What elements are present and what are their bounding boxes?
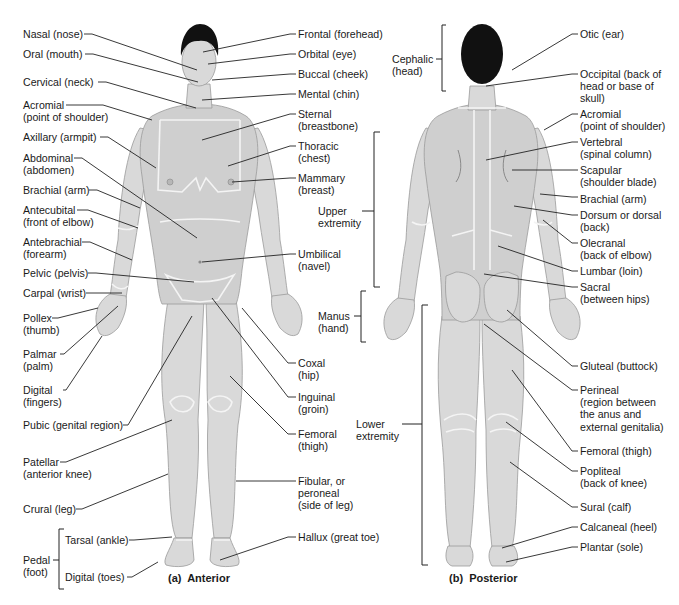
label-sternal: Sternal (breastbone) bbox=[298, 108, 358, 132]
label-lower-extremity: Lower extremity bbox=[356, 418, 399, 442]
label-antebrachial: Antebrachial (forearm) bbox=[23, 236, 82, 260]
label-brachial: Brachial (arm) bbox=[23, 184, 90, 196]
label-acromial-posterior: Acromial (point of shoulder) bbox=[580, 108, 665, 132]
label-scapular: Scapular (shoulder blade) bbox=[580, 164, 657, 188]
caption-anterior: (a) Anterior bbox=[168, 572, 230, 584]
label-sural: Sural (calf) bbox=[580, 501, 631, 513]
label-otic: Otic (ear) bbox=[580, 28, 624, 40]
label-sacral: Sacral (between hips) bbox=[580, 281, 650, 305]
posterior-figure bbox=[384, 24, 580, 566]
label-abdominal: Abdominal (abdomen) bbox=[23, 152, 74, 176]
label-umbilical: Umbilical (navel) bbox=[298, 248, 341, 272]
label-orbital: Orbital (eye) bbox=[298, 48, 356, 60]
label-femoral-anterior: Femoral (thigh) bbox=[298, 428, 337, 452]
label-tarsal: Tarsal (ankle) bbox=[65, 534, 129, 546]
caption-posterior: (b) Posterior bbox=[449, 572, 517, 584]
label-patellar: Patellar (anterior knee) bbox=[23, 456, 92, 480]
label-pedal: Pedal (foot) bbox=[23, 554, 50, 578]
label-coxal: Coxal (hip) bbox=[298, 357, 325, 381]
anterior-figure bbox=[96, 24, 302, 567]
label-carpal: Carpal (wrist) bbox=[23, 287, 86, 299]
label-perineal: Perineal (region between the anus and ex… bbox=[580, 384, 664, 433]
label-fibular: Fibular, or peroneal (side of leg) bbox=[298, 475, 353, 512]
label-thoracic: Thoracic (chest) bbox=[298, 140, 339, 164]
label-acromial: Acromial (point of shoulder) bbox=[23, 99, 108, 123]
label-occipital: Occipital (back of head or base of skull… bbox=[580, 68, 661, 105]
label-frontal: Frontal (forehead) bbox=[298, 28, 383, 40]
label-lumbar: Lumbar (loin) bbox=[580, 265, 642, 277]
label-buccal: Buccal (cheek) bbox=[298, 68, 368, 80]
label-palmar: Palmar (palm) bbox=[23, 348, 57, 372]
label-pelvic: Pelvic (pelvis) bbox=[23, 267, 88, 279]
label-cephalic: Cephalic (head) bbox=[392, 53, 433, 77]
label-crural: Crural (leg) bbox=[23, 503, 76, 515]
label-brachial-posterior: Brachial (arm) bbox=[580, 193, 647, 205]
label-mental: Mental (chin) bbox=[298, 88, 359, 100]
label-upper-extremity: Upper extremity bbox=[318, 205, 361, 229]
label-femoral-posterior: Femoral (thigh) bbox=[580, 445, 652, 457]
label-axillary: Axillary (armpit) bbox=[23, 131, 97, 143]
label-mammary: Mammary (breast) bbox=[298, 172, 345, 196]
body-regions-diagram: Nasal (nose) Oral (mouth) Cervical (neck… bbox=[0, 0, 679, 605]
label-nasal: Nasal (nose) bbox=[23, 28, 83, 40]
label-pubic: Pubic (genital region) bbox=[23, 419, 123, 431]
label-olecranal: Olecranal (back of elbow) bbox=[580, 237, 652, 261]
label-plantar: Plantar (sole) bbox=[580, 541, 643, 553]
label-dorsum: Dorsum or dorsal (back) bbox=[580, 209, 661, 233]
label-oral: Oral (mouth) bbox=[23, 48, 82, 60]
label-hallux: Hallux (great toe) bbox=[298, 531, 379, 543]
label-cervical: Cervical (neck) bbox=[23, 76, 94, 88]
label-inguinal: Inguinal (groin) bbox=[298, 391, 335, 415]
label-digital-toes: Digital (toes) bbox=[65, 571, 124, 583]
label-gluteal: Gluteal (buttock) bbox=[580, 360, 658, 372]
label-digital-fingers: Digital (fingers) bbox=[23, 384, 62, 408]
label-pollex: Pollex (thumb) bbox=[23, 312, 60, 336]
label-calcaneal: Calcaneal (heel) bbox=[580, 521, 657, 533]
label-popliteal: Popliteal (back of knee) bbox=[580, 465, 647, 489]
label-vertebral: Vertebral (spinal column) bbox=[580, 136, 652, 160]
label-manus: Manus (hand) bbox=[318, 310, 350, 334]
label-antecubital: Antecubital (front of elbow) bbox=[23, 204, 94, 228]
